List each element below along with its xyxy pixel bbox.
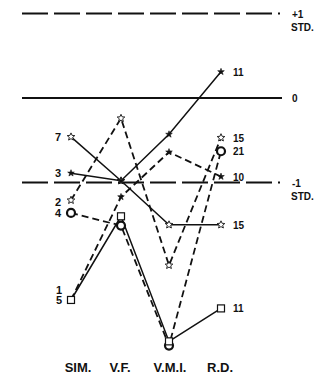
marker-asterisk-1: [218, 173, 225, 179]
series-start-label: 3: [55, 167, 61, 179]
series-line-4: [71, 151, 221, 345]
series-line-7: [71, 137, 221, 225]
marker-circle-4: [217, 147, 225, 155]
series-line-2: [71, 118, 221, 265]
category-label: V.M.I.: [154, 360, 187, 375]
series-end-label: 11: [233, 67, 244, 78]
marker-square-5: [218, 305, 225, 312]
series-end-label: 11: [233, 303, 244, 314]
series-lines: [71, 72, 221, 346]
series-markers: [67, 68, 225, 349]
profile-chart: +1STD.0-1STD. 732415151115211011 SIM.V.F…: [0, 0, 324, 379]
series-end-label: 15: [233, 220, 245, 231]
category-label: SIM.: [65, 360, 92, 375]
series-start-label: 7: [55, 131, 61, 143]
marker-star-7: [217, 221, 225, 228]
marker-square-5: [118, 213, 125, 220]
series-labels: 732415151115211011: [55, 67, 245, 315]
reference-line-label: 0: [292, 93, 298, 104]
category-label: R.D.: [207, 360, 233, 375]
series-end-label: 10: [233, 172, 245, 183]
category-labels: SIM.V.F.V.M.I.R.D.: [65, 360, 233, 375]
marker-circle-4: [67, 209, 75, 217]
series-line-5: [71, 216, 221, 341]
series-end-label: 15: [233, 133, 245, 144]
reference-line-sublabel: STD.: [291, 22, 314, 33]
reference-line-label: -1: [292, 178, 301, 189]
reference-lines: +1STD.0-1STD.: [22, 9, 314, 202]
marker-square-5: [166, 338, 173, 345]
reference-line-label: +1: [292, 9, 304, 20]
series-line-1: [71, 152, 221, 300]
marker-star-2: [165, 261, 173, 268]
series-start-label: 4: [55, 207, 62, 219]
series-end-label: 21: [233, 146, 245, 157]
marker-star-2: [117, 114, 125, 121]
marker-star-2: [217, 134, 225, 141]
category-label: V.F.: [109, 360, 130, 375]
marker-circle-4: [117, 222, 125, 230]
reference-line-sublabel: STD.: [291, 191, 314, 202]
series-start-label: 5: [56, 294, 62, 306]
marker-asterisk-3: [68, 170, 75, 176]
series-line-3: [71, 72, 221, 181]
marker-square-5: [68, 296, 75, 303]
